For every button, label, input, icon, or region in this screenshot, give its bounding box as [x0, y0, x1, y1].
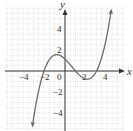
y-tick-label: −2 — [53, 87, 63, 97]
x-tick-label: 4 — [103, 72, 108, 82]
axes: x y — [5, 0, 132, 131]
x-axis-label: x — [126, 65, 132, 77]
y-tick-label: 4 — [57, 24, 62, 34]
curve-path — [33, 14, 111, 123]
y-axis-label: y — [59, 0, 65, 10]
function-curve — [31, 9, 113, 128]
x-tick-label: 0 — [57, 72, 62, 82]
curve-end-arrow-icon — [108, 9, 112, 14]
curve-start-arrow-icon — [31, 122, 35, 127]
x-tick-label: −4 — [19, 72, 29, 82]
cubic-function-graph: x y −4−2024 42−2−4 — [0, 0, 133, 131]
y-tick-label: −4 — [53, 108, 63, 118]
x-axis-arrow-icon — [119, 69, 125, 74]
y-tick-label: 2 — [57, 45, 62, 55]
